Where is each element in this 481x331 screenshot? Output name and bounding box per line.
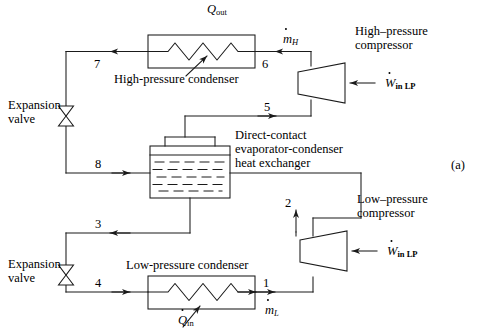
hp-compressor-label-line1: High–pressure xyxy=(355,24,428,38)
low-pressure-compressor-label: Low–pressure compressor xyxy=(357,192,428,220)
q-out-label: Qout xyxy=(207,2,227,17)
expansion-valve-lower-line1: Expansion xyxy=(8,257,61,271)
state-point-5: 5 xyxy=(264,100,270,114)
hp-compressor-label-line2: compressor xyxy=(355,38,428,52)
expansion-valve-lower-line2: valve xyxy=(8,271,61,285)
heat-exchanger-label-line3: heat exchanger xyxy=(235,156,343,170)
mass-flow-low-label: mL xyxy=(265,303,279,318)
high-pressure-compressor-body xyxy=(298,63,345,103)
expansion-valve-upper-line2: valve xyxy=(8,112,61,126)
hp-work-input-label: Win LP xyxy=(385,76,416,91)
cascade-refrigeration-diagram: Qout High-pressure condenser 7 6 mH High… xyxy=(0,0,481,331)
high-pressure-condenser-coil xyxy=(148,43,255,60)
mass-flow-high-label: mH xyxy=(283,32,298,47)
heat-exchanger-tank xyxy=(150,146,230,198)
heat-exchanger-label: Direct-contact evaporator-condenser heat… xyxy=(235,128,343,170)
state-point-4: 4 xyxy=(95,276,101,290)
state-point-7: 7 xyxy=(94,57,100,71)
heat-exchanger-liquid xyxy=(153,162,228,191)
high-pressure-condenser-label: High-pressure condenser xyxy=(114,72,239,86)
heat-exchanger-label-line2: evaporator-condenser xyxy=(235,142,343,156)
low-pressure-condenser-label: Low-pressure condenser xyxy=(126,258,249,272)
state-point-3: 3 xyxy=(95,217,101,231)
high-pressure-compressor-label: High–pressure compressor xyxy=(355,24,428,52)
panel-tag: (a) xyxy=(451,158,465,172)
lp-compressor-label-line1: Low–pressure xyxy=(357,192,428,206)
lp-compressor-label-line2: compressor xyxy=(357,206,428,220)
expansion-valve-upper-label: Expansion valve xyxy=(8,98,61,126)
lp-work-input-label: Win LP xyxy=(387,244,418,259)
expansion-valve-upper-line1: Expansion xyxy=(8,98,61,112)
heat-exchanger-label-line1: Direct-contact xyxy=(235,128,343,142)
state-point-6: 6 xyxy=(262,57,268,71)
low-pressure-compressor-body xyxy=(300,231,347,271)
state-point-8: 8 xyxy=(95,157,101,171)
q-in-label: Qin xyxy=(178,313,194,328)
expansion-valve-lower-label: Expansion valve xyxy=(8,257,61,285)
state-point-2: 2 xyxy=(285,196,291,210)
state-point-1: 1 xyxy=(263,276,269,290)
